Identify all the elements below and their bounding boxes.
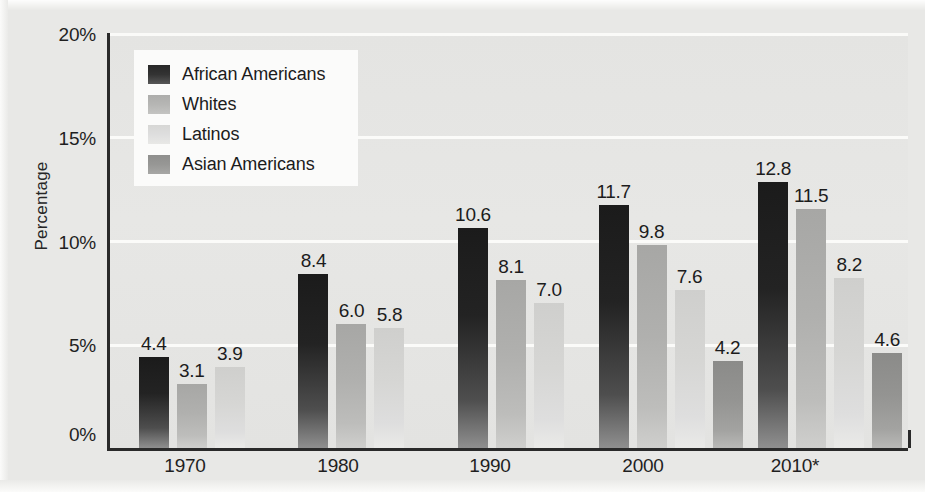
page-left-edge — [0, 0, 8, 492]
page-top-edge — [0, 0, 925, 10]
bar-column — [872, 353, 902, 448]
legend-item-african-americans: African Americans — [148, 59, 358, 89]
page-bottom-edge — [0, 480, 925, 492]
chart-figure: Percentage 20% 15% 10% 5% 0% 4.43.13.98.… — [0, 0, 925, 492]
y-tick-label-15: 15% — [34, 128, 96, 150]
bar-column — [496, 280, 526, 448]
bar-value-label: 8.1 — [498, 256, 524, 278]
x-tick-label-1990: 1990 — [430, 455, 550, 477]
bar-column — [637, 245, 667, 448]
bar-value-label: 10.6 — [455, 204, 491, 226]
bar-value-label: 8.2 — [836, 254, 862, 276]
legend-label-0: African Americans — [182, 64, 325, 85]
bar-column — [139, 357, 169, 448]
bar-column — [336, 324, 366, 449]
bar-value-label: 12.8 — [755, 158, 791, 180]
series-3-swatch-icon — [148, 155, 170, 174]
legend-item-whites: Whites — [148, 89, 358, 119]
y-tick-label-10: 10% — [34, 232, 96, 254]
bar-value-label: 4.6 — [874, 329, 900, 351]
series-2-swatch-icon — [148, 125, 170, 144]
bar-value-label: 7.6 — [677, 266, 703, 288]
x-axis-right-tick — [908, 430, 911, 448]
x-tick-label-1970: 1970 — [125, 455, 245, 477]
bar-column — [834, 278, 864, 448]
bar-column — [675, 290, 705, 448]
x-tick-label-2010: 2010* — [735, 455, 855, 477]
bar-1970-series-2: 3.9 — [215, 367, 245, 448]
legend-item-asian-americans: Asian Americans — [148, 149, 358, 179]
bar-2010-series-3: 4.6 — [872, 353, 902, 448]
x-tick-label-2000: 2000 — [583, 455, 703, 477]
y-tick-label-0: 0% — [34, 424, 96, 446]
bar-2000-series-2: 7.6 — [675, 290, 705, 448]
bar-1970-series-0: 4.4 — [139, 357, 169, 448]
bar-value-label: 6.0 — [339, 300, 365, 322]
bar-value-label: 11.7 — [596, 181, 630, 203]
bar-2010-series-0: 12.8 — [758, 182, 788, 448]
bar-column — [534, 303, 564, 448]
bar-2000-series-0: 11.7 — [599, 205, 629, 448]
bar-value-label: 4.4 — [141, 333, 167, 355]
bar-1990-series-2: 7.0 — [534, 303, 564, 448]
bar-1990-series-1: 8.1 — [496, 280, 526, 448]
bar-column — [758, 182, 788, 448]
bar-column — [599, 205, 629, 448]
bar-column — [374, 328, 404, 448]
bar-value-label: 8.4 — [301, 250, 327, 272]
bar-value-label: 9.8 — [639, 221, 665, 243]
bar-1980-series-2: 5.8 — [374, 328, 404, 448]
bar-1980-series-1: 6.0 — [336, 324, 366, 449]
bar-value-label: 3.1 — [179, 360, 205, 382]
bar-1980-series-0: 8.4 — [298, 274, 328, 448]
legend-item-latinos: Latinos — [148, 119, 358, 149]
bar-column — [298, 274, 328, 448]
bar-value-label: 5.8 — [377, 304, 403, 326]
bar-value-label: 3.9 — [217, 343, 243, 365]
y-tick-label-5: 5% — [34, 335, 96, 357]
bar-column — [713, 361, 743, 448]
legend-label-3: Asian Americans — [182, 154, 315, 175]
bar-column — [215, 367, 245, 448]
legend: African Americans Whites Latinos Asian A… — [134, 50, 358, 186]
series-0-swatch-icon — [148, 65, 170, 84]
legend-label-1: Whites — [182, 94, 236, 115]
bar-column — [796, 209, 826, 448]
bar-1990-series-0: 10.6 — [458, 228, 488, 448]
bar-value-label: 4.2 — [715, 337, 741, 359]
bar-1970-series-1: 3.1 — [177, 384, 207, 448]
bar-2010-series-1: 11.5 — [796, 209, 826, 448]
x-tick-label-1980: 1980 — [278, 455, 398, 477]
legend-label-2: Latinos — [182, 124, 239, 145]
bar-column — [177, 384, 207, 448]
bar-2000-series-1: 9.8 — [637, 245, 667, 448]
bar-2000-series-3: 4.2 — [713, 361, 743, 448]
bar-value-label: 11.5 — [794, 185, 828, 207]
bar-2010-series-2: 8.2 — [834, 278, 864, 448]
y-tick-label-20: 20% — [34, 24, 96, 46]
bar-value-label: 7.0 — [536, 279, 562, 301]
bar-column — [458, 228, 488, 448]
y-axis-title: Percentage — [32, 126, 52, 286]
series-1-swatch-icon — [148, 95, 170, 114]
